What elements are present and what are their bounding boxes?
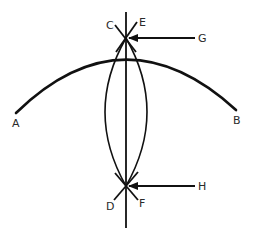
label-a: A xyxy=(12,117,20,130)
label-e: E xyxy=(139,16,146,29)
label-f: F xyxy=(139,197,145,210)
label-c: C xyxy=(106,19,114,32)
label-g: G xyxy=(198,32,207,45)
label-d: D xyxy=(106,200,114,213)
label-b: B xyxy=(233,114,241,127)
label-h: H xyxy=(198,180,206,193)
bisector-diagram: A B C E G H D F xyxy=(0,0,256,231)
